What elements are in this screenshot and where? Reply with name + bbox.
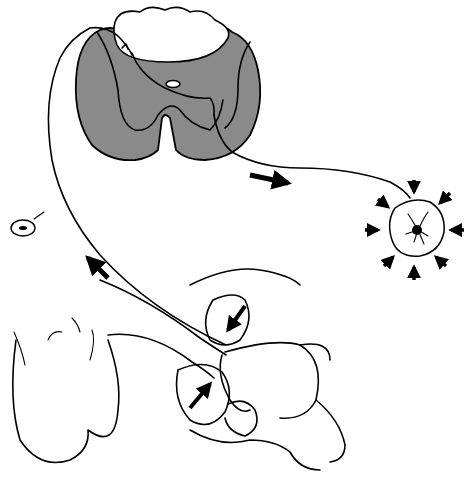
arrow-right-icon bbox=[250, 175, 288, 183]
spinal-cord-cross-section bbox=[76, 7, 260, 160]
genital-region-with-hand bbox=[13, 269, 345, 470]
squeeze-arrow-up-icon bbox=[190, 384, 210, 408]
ganglion-stalk bbox=[34, 212, 44, 219]
reflex-arc-diagram: Line drawing of a reflex arc: spinal cor… bbox=[0, 0, 474, 478]
diagram-svg bbox=[0, 0, 474, 478]
contracting-muscle bbox=[365, 180, 464, 280]
squeeze-arrow-down-icon bbox=[228, 306, 245, 330]
